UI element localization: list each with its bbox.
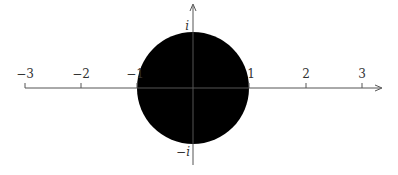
tick-label-neg3: −3	[16, 67, 34, 81]
tick-label-neg1: −1	[126, 67, 144, 81]
label-i: i	[185, 19, 189, 33]
tick-label-2: 2	[302, 67, 310, 81]
label-neg-i: −i	[176, 145, 190, 159]
tick-label-neg2: −2	[72, 67, 90, 81]
tick-label-3: 3	[358, 67, 366, 81]
tick-label-1: 1	[247, 67, 255, 81]
complex-plane-diagram: −3 −2 −1 1 2 3 i −i	[0, 0, 398, 175]
